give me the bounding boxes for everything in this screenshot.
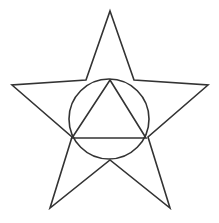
drawing-canvas: Pentagram with inscribed circle and equi… — [0, 0, 219, 223]
star-circle-triangle-figure: Pentagram with inscribed circle and equi… — [0, 0, 219, 223]
background — [0, 0, 219, 223]
